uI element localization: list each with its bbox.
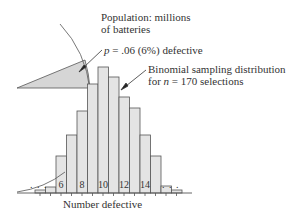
tick-label-14: 14 [140, 179, 150, 190]
left-ellipsis: . . . [30, 179, 48, 190]
binomial-arrowhead [121, 83, 128, 90]
binomial-line2-prefix: for [148, 75, 164, 87]
defective-rate-label: p = .06 (6%) defective [104, 44, 203, 56]
binomial-label: Binomial sampling distribution for n = 1… [148, 63, 286, 87]
binomial-arrow-line [126, 70, 146, 86]
population-defective-wedge [17, 60, 90, 88]
population-label: Population: millions of batteries [101, 11, 191, 35]
bar-12 [130, 108, 141, 193]
x-axis-title: Number defective [63, 198, 142, 210]
bar-10 [109, 77, 120, 193]
right-ellipsis: . . . [162, 179, 180, 190]
bar-6 [67, 135, 78, 193]
p-value-text: = .06 (6%) defective [110, 44, 203, 56]
tick-label-8: 8 [80, 179, 85, 190]
binomial-line2-suffix: = 170 selections [169, 75, 243, 87]
tick-label-10: 10 [98, 179, 108, 190]
population-label-line1: Population: millions [101, 11, 191, 23]
tick-label-6: 6 [59, 179, 64, 190]
p-arrow-line [83, 50, 102, 68]
tick-label-12: 12 [119, 179, 129, 190]
bar-9 [98, 67, 109, 193]
bar-8 [88, 84, 99, 193]
population-label-line2: of batteries [101, 23, 191, 35]
binomial-figure: Population: millions of batteries p = .0… [0, 0, 290, 215]
binomial-label-line2: for n = 170 selections [148, 75, 286, 87]
binomial-label-line1: Binomial sampling distribution [148, 63, 286, 75]
bar-14 [151, 156, 162, 193]
